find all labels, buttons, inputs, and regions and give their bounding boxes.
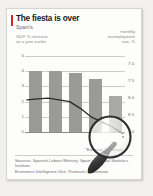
magnifying-glass-icon <box>88 112 153 196</box>
page-title: The fiesta is over <box>16 14 79 23</box>
left-tick-label: 4 <box>22 69 24 74</box>
left-tick-label: 3 <box>22 84 24 89</box>
red-accent-bar <box>11 15 13 26</box>
right-tick-label: 8.0 <box>128 96 134 101</box>
right-axis-caption: monthly unemployment rate, % <box>108 29 135 45</box>
left-tick-label: 2 <box>22 99 24 104</box>
left-axis-caption: GDP, % increase on a year earlier <box>16 34 48 44</box>
left-tick-label: 1 <box>22 114 24 119</box>
chart-subtitle: Spain's <box>16 24 33 30</box>
left-tick-label: 0 <box>22 129 24 134</box>
left-tick-label: 5 <box>22 53 24 58</box>
screenshot-root: The fiesta is over Spain's GDP, % increa… <box>0 0 153 196</box>
right-tick-label: 7.0 <box>128 62 134 67</box>
right-tick-label: 7.5 <box>128 79 134 84</box>
